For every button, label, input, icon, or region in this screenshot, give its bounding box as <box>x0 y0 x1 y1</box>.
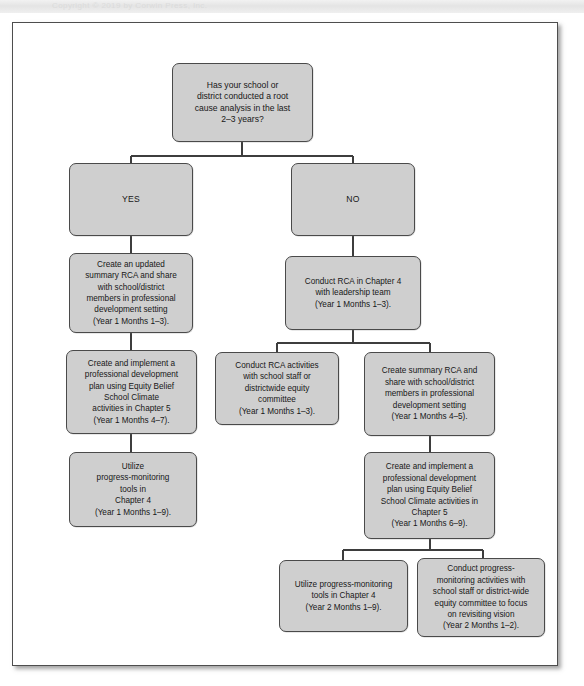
step-no-conduct-rca-activities-staff-label: Conduct RCA activities with school staff… <box>220 360 334 417</box>
step-no-conduct-rca-activities-staff[interactable]: Conduct RCA activities with school staff… <box>215 352 339 425</box>
step-yes-create-updated-summary-rca-label: Create an updated summary RCA and share … <box>74 259 188 327</box>
step-yes-professional-development-plan[interactable]: Create and implement a professional deve… <box>66 350 197 434</box>
step-no-progress-monitoring-tools-label: Utilize progress-monitoring tools in Cha… <box>284 579 403 613</box>
branch-yes[interactable]: YES <box>69 163 193 236</box>
header-strip-text: Copyright © 2019 by Corwin Press, Inc. <box>52 1 207 10</box>
flowchart-canvas: Has your school or district conducted a … <box>13 23 559 667</box>
step-no-progress-monitoring-activities[interactable]: Conduct progress- monitoring activities … <box>417 558 545 637</box>
scanned-header-strip: Copyright © 2019 by Corwin Press, Inc. <box>0 0 584 13</box>
step-yes-professional-development-plan-label: Create and implement a professional deve… <box>71 358 192 426</box>
step-yes-create-updated-summary-rca[interactable]: Create an updated summary RCA and share … <box>69 253 193 333</box>
step-yes-progress-monitoring-tools-label: Utilize progress-monitoring tools in Cha… <box>74 461 192 518</box>
flowchart-page-root: Copyright © 2019 by Corwin Press, Inc. <box>0 0 584 686</box>
branch-no[interactable]: NO <box>291 163 415 236</box>
step-no-professional-development-plan-label: Create and implement a professional deve… <box>369 461 490 529</box>
decision-root-cause-analysis[interactable]: Has your school or district conducted a … <box>172 63 313 142</box>
step-no-progress-monitoring-activities-label: Conduct progress- monitoring activities … <box>422 563 540 631</box>
decision-root-cause-analysis-label: Has your school or district conducted a … <box>177 80 308 126</box>
step-no-create-summary-rca-label: Create summary RCA and share with school… <box>369 365 490 422</box>
step-no-conduct-rca-leadership-team[interactable]: Conduct RCA in Chapter 4 with leadership… <box>285 256 421 330</box>
step-no-professional-development-plan[interactable]: Create and implement a professional deve… <box>364 452 495 539</box>
step-no-conduct-rca-leadership-team-label: Conduct RCA in Chapter 4 with leadership… <box>290 276 416 310</box>
branch-no-label: NO <box>296 194 410 205</box>
step-no-progress-monitoring-tools[interactable]: Utilize progress-monitoring tools in Cha… <box>279 560 408 632</box>
branch-yes-label: YES <box>74 194 188 205</box>
step-no-create-summary-rca[interactable]: Create summary RCA and share with school… <box>364 352 495 436</box>
page-sheet: Has your school or district conducted a … <box>12 22 558 666</box>
step-yes-progress-monitoring-tools[interactable]: Utilize progress-monitoring tools in Cha… <box>69 452 197 527</box>
